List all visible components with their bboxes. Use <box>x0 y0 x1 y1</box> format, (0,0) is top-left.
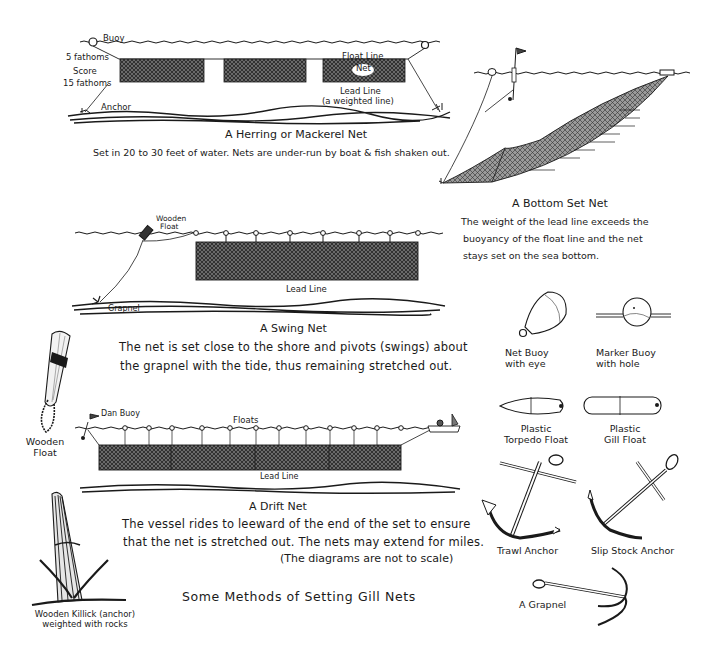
wooden-killick-illustration <box>32 492 126 605</box>
caption-line: weighted with rocks <box>30 620 140 630</box>
wooden-float-small <box>139 225 153 239</box>
swing-net-panel <box>196 242 418 280</box>
plastic-torpedo-float-caption: Plastic Torpedo Float <box>496 424 576 446</box>
swing-net-description-line-2: the grapnel with the tide, thus remainin… <box>120 360 452 373</box>
page-title: Some Methods of Setting Gill Nets <box>182 590 416 604</box>
swing-net-description-line-1: The net is set close to the shore and pi… <box>119 341 468 354</box>
boat-icon <box>660 70 674 75</box>
anchor-icon <box>439 178 443 184</box>
grapnel-illustration <box>533 568 627 625</box>
caption-line: Gill Float <box>592 435 658 446</box>
drift-net-panel <box>99 445 401 470</box>
lead-line-note: (a weighted line) <box>322 97 394 107</box>
caption-line: with eye <box>505 359 549 370</box>
caption-line: Float <box>20 448 70 459</box>
swing-net-caption: A Swing Net <box>260 323 327 336</box>
buoy-label: Buoy <box>103 34 124 44</box>
slip-stock-anchor-illustration <box>588 453 680 538</box>
five-fathoms-label: 5 fathoms <box>66 53 109 63</box>
net-buoy-illustration <box>520 292 567 337</box>
net-panel-1 <box>120 59 204 82</box>
herring-net-caption: A Herring or Mackerel Net <box>225 129 367 142</box>
bottom-set-net-description-line-1: The weight of the lead line exceeds the <box>461 217 649 228</box>
caption-line: with hole <box>596 359 656 370</box>
scale-note: (The diagrams are not to scale) <box>280 553 453 566</box>
vessel-icon <box>428 414 460 432</box>
trawl-anchor-caption: Trawl Anchor <box>497 546 558 557</box>
drift-net-diagram <box>75 414 460 493</box>
net-body <box>443 76 668 183</box>
trawl-anchor-illustration <box>482 455 576 538</box>
plastic-torpedo-float-illustration <box>500 397 563 414</box>
herring-net-description: Set in 20 to 30 feet of water. Nets are … <box>93 148 450 159</box>
net-buoy-caption: Net Buoy with eye <box>505 348 549 370</box>
wooden-float-caption: Wooden Float <box>20 437 70 459</box>
marker-buoy-caption: Marker Buoy with hole <box>596 348 656 370</box>
bottom-set-net-description-line-3: stays set on the sea bottom. <box>463 251 599 262</box>
plastic-gill-float-illustration <box>584 396 661 415</box>
lead-line-label: Lead Line <box>286 285 327 295</box>
marker-buoy-illustration <box>596 298 671 326</box>
bottom-set-net-caption: A Bottom Set Net <box>512 198 608 211</box>
bottom-set-net-description-line-2: buoyancy of the float line and the net <box>463 234 643 245</box>
caption-line: Torpedo Float <box>496 435 576 446</box>
score-label: Score <box>73 67 97 77</box>
plastic-gill-float-caption: Plastic Gill Float <box>592 424 658 446</box>
grapnel-caption: A Grapnel <box>519 600 566 611</box>
buoy <box>488 69 496 76</box>
wooden-float-illustration <box>41 331 70 432</box>
wooden-killick-caption: Wooden Killick (anchor) weighted with ro… <box>30 610 140 630</box>
float-line-label: Float Line <box>342 52 383 62</box>
grapnel-label: Grapnel <box>108 304 140 313</box>
drift-net-description-line-2: that the net is stretched out. The nets … <box>123 536 484 549</box>
buoy-left <box>89 38 97 46</box>
bottom-set-net-diagram <box>439 48 690 184</box>
floats-label: Floats <box>233 416 258 426</box>
dan-buoy-flag-icon <box>84 414 99 436</box>
slip-stock-anchor-caption: Slip Stock Anchor <box>591 546 674 557</box>
buoy-right <box>422 42 429 49</box>
net-label: Net <box>356 64 371 74</box>
wooden-float-label-2: Float <box>160 223 179 232</box>
fifteen-fathoms-label: 15 fathoms <box>63 79 111 89</box>
anchor-label: Anchor <box>101 103 131 113</box>
anchor-left-icon <box>80 108 90 113</box>
swing-net-diagram <box>72 225 445 315</box>
sea-surface <box>80 41 440 43</box>
dan-buoy-label: Dan Buoy <box>101 409 140 418</box>
net-panel-2 <box>224 59 306 82</box>
anchor-right-icon <box>432 103 442 112</box>
drift-net-description-line-1: The vessel rides to leeward of the end o… <box>122 518 471 531</box>
drift-net-caption: A Drift Net <box>249 501 307 514</box>
sea-bed <box>80 482 460 493</box>
lead-line-label: Lead Line <box>260 472 298 481</box>
